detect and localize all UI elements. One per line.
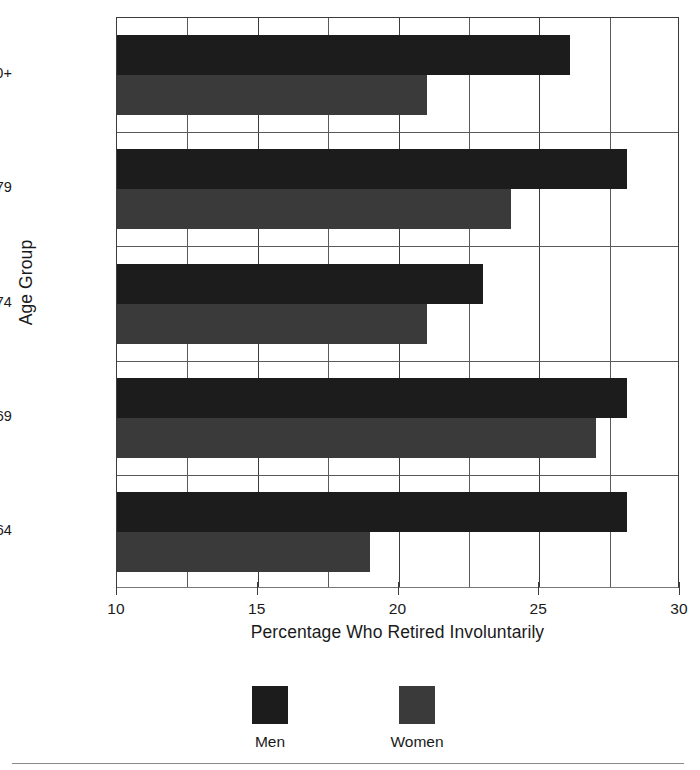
bar-men-age-75-79 [117, 149, 627, 189]
bar-men-age-60-64 [117, 492, 627, 532]
x-tick-label-30: 30 [649, 600, 700, 618]
x-tick-label-25: 25 [508, 600, 568, 618]
category-label-age-75-79: Age 75-79 [0, 179, 12, 195]
x-axis-title: Percentage Who Retired Involuntarily [116, 622, 679, 643]
legend-swatch-women [399, 686, 435, 724]
x-tick-label-20: 20 [368, 600, 428, 618]
x-tick-15 [257, 582, 258, 595]
x-tick-30 [679, 582, 680, 595]
category-label-age-70-74: Age 70-74 [0, 294, 12, 310]
x-tick-20 [398, 582, 399, 595]
bar-men-age-65-69 [117, 378, 627, 418]
legend-label-women: Women [381, 733, 453, 751]
footer-divider [12, 763, 684, 764]
legend-item-men: Men [234, 686, 306, 751]
bar-women-age-75-79 [117, 189, 511, 229]
gridline-y-2 [117, 361, 678, 362]
category-label-age-65-69: Age 65-69 [0, 408, 12, 424]
y-axis-title: Age Group [16, 213, 37, 353]
x-tick-label-10: 10 [86, 600, 146, 618]
category-label-age-60-64: Age 60-64 [0, 522, 12, 538]
legend-item-women: Women [381, 686, 453, 751]
gridline-y-4 [117, 132, 678, 133]
gridline-y-3 [117, 246, 678, 247]
bar-women-age-60-64 [117, 532, 370, 572]
chart-figure: 10 15 20 25 30 Age 60-64 Age 65-69 Age 7… [0, 0, 700, 770]
bar-women-age-80- [117, 75, 427, 115]
bar-women-age-70-74 [117, 304, 427, 344]
bar-men-age-80- [117, 35, 570, 75]
x-tick-25 [538, 582, 539, 595]
chart-legend: Men Women [0, 686, 700, 756]
plot-area [116, 17, 679, 588]
bar-women-age-65-69 [117, 418, 596, 458]
category-label-age-80-plus: Age 80+ [0, 65, 12, 81]
legend-label-men: Men [234, 733, 306, 751]
legend-swatch-men [252, 686, 288, 724]
x-tick-label-15: 15 [227, 600, 287, 618]
bar-men-age-70-74 [117, 264, 483, 304]
x-tick-10 [116, 582, 117, 595]
gridline-y-1 [117, 475, 678, 476]
